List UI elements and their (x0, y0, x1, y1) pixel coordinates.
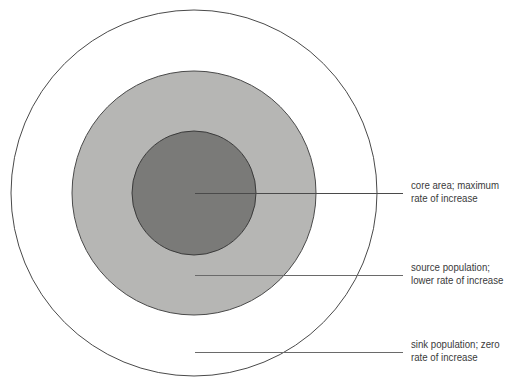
sink-zone-label-line1: sink population; zero (411, 338, 500, 351)
core-zone-label-line2: rate of increase (411, 192, 499, 205)
sink-zone-label-line2: rate of increase (411, 351, 500, 364)
core-zone-label: core area; maximum rate of increase (411, 179, 499, 204)
source-zone-label-line2: lower rate of increase (411, 274, 503, 287)
source-zone-label: source population; lower rate of increas… (411, 261, 503, 286)
sink-zone-label: sink population; zero rate of increase (411, 338, 500, 363)
core-zone-label-line1: core area; maximum (411, 179, 499, 192)
source-zone-label-line1: source population; (411, 261, 503, 274)
